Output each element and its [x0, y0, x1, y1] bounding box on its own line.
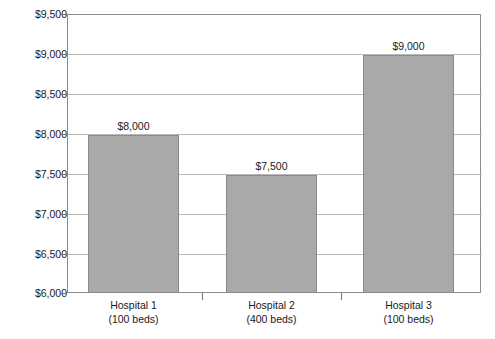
x-tick-label-sub: (100 beds) [363, 313, 454, 327]
y-tick-mark [60, 94, 67, 95]
y-axis: $9,500 $9,000 $8,500 $8,000 $7,500 $7,00… [0, 0, 67, 339]
y-tick-mark [60, 14, 67, 15]
y-tick-mark [60, 54, 67, 55]
x-tick-label-hospital-1: Hospital 1 (100 beds) [88, 299, 179, 326]
y-tick-mark [60, 134, 67, 135]
bar-hospital-1[interactable] [88, 135, 179, 293]
bar-chart: $9,500 $9,000 $8,500 $8,000 $7,500 $7,00… [0, 0, 495, 339]
y-tick-mark [60, 254, 67, 255]
bar-hospital-3[interactable] [363, 55, 454, 293]
bars-layer [67, 14, 481, 293]
x-tick-label-sub: (100 beds) [88, 313, 179, 327]
bar-value-label: $7,500 [226, 160, 317, 172]
bar-hospital-2[interactable] [226, 175, 317, 293]
bar-value-label: $9,000 [363, 40, 454, 52]
x-tick-label-main: Hospital 1 [110, 299, 157, 311]
x-tick-mark [341, 293, 342, 300]
x-tick-mark [202, 293, 203, 300]
y-tick-mark [60, 174, 67, 175]
x-tick-label-main: Hospital 2 [248, 299, 295, 311]
x-tick-label-main: Hospital 3 [385, 299, 432, 311]
x-tick-label-hospital-3: Hospital 3 (100 beds) [363, 299, 454, 326]
bar-value-label: $8,000 [88, 120, 179, 132]
y-tick-mark [60, 293, 67, 294]
x-tick-label-hospital-2: Hospital 2 (400 beds) [226, 299, 317, 326]
y-tick-mark [60, 214, 67, 215]
x-tick-label-sub: (400 beds) [226, 313, 317, 327]
